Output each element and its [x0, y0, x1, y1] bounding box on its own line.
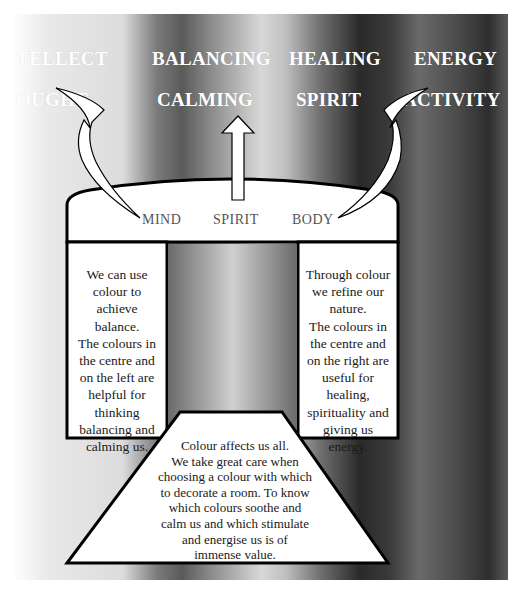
text-line: helpful for [69, 386, 165, 403]
arch-label-spirit: SPIRIT [213, 212, 259, 228]
text-line: to decorate a room. To know [130, 485, 340, 501]
text-line: We can use [69, 266, 165, 283]
text-line: we refine our [300, 283, 396, 300]
arch-label-mind: MIND [142, 212, 181, 228]
left-box-text: We can use colour to achieve balance. Th… [69, 266, 165, 455]
text-line: the centre and [300, 335, 396, 352]
arch-label-body: BODY [292, 212, 334, 228]
text-line: achieve [69, 300, 165, 317]
text-line: balance. [69, 318, 165, 335]
right-box-text: Through colour we refine our nature. The… [300, 266, 396, 455]
text-line: We take great care when [130, 454, 340, 470]
text-line: nature. [300, 300, 396, 317]
text-line: thinking [69, 404, 165, 421]
text-line: the centre and [69, 352, 165, 369]
text-line: spirituality and [300, 404, 396, 421]
text-line: Colour affects us all. [130, 438, 340, 454]
text-line: giving us [300, 421, 396, 438]
text-line: immense value. [130, 547, 340, 563]
text-line: and energise us is of [130, 532, 340, 548]
text-line: calm us and which stimulate [130, 516, 340, 532]
text-line: The colours in [300, 318, 396, 335]
middle-strip [168, 244, 297, 436]
text-line: healing, [300, 386, 396, 403]
text-line: The colours in [69, 335, 165, 352]
text-line: on the left are [69, 369, 165, 386]
text-line: balancing and [69, 421, 165, 438]
text-line: colour to [69, 283, 165, 300]
text-line: Through colour [300, 266, 396, 283]
text-line: choosing a colour with which [130, 469, 340, 485]
text-line: which colours soothe and [130, 500, 340, 516]
text-line: useful for [300, 369, 396, 386]
trapezoid-text: Colour affects us all. We take great car… [130, 438, 340, 563]
text-line: on the right are [300, 352, 396, 369]
